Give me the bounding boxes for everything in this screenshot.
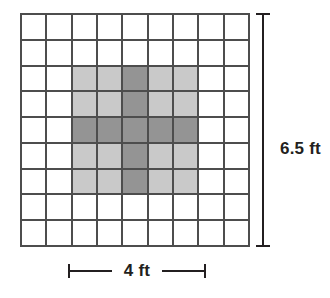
grid-cell bbox=[149, 195, 174, 221]
grid-cell bbox=[149, 221, 174, 247]
grid-area-diagram: 6.5 ft 4 ft bbox=[0, 0, 330, 298]
grid bbox=[20, 13, 250, 247]
grid-cell bbox=[22, 170, 47, 196]
grid-cell bbox=[73, 170, 98, 196]
grid-cell bbox=[47, 67, 72, 93]
vertical-dimension-cap-bottom bbox=[256, 245, 270, 247]
grid-cell bbox=[47, 144, 72, 170]
grid-cell bbox=[123, 195, 148, 221]
grid-cell bbox=[98, 118, 123, 144]
grid-cell bbox=[47, 92, 72, 118]
grid-cell bbox=[149, 92, 174, 118]
grid-cell bbox=[174, 15, 199, 41]
grid-cell bbox=[73, 67, 98, 93]
grid-cell bbox=[73, 41, 98, 67]
grid-cell bbox=[73, 195, 98, 221]
grid-cell bbox=[22, 15, 47, 41]
grid-cell bbox=[199, 195, 224, 221]
vertical-dimension-label: 6.5 ft bbox=[280, 0, 321, 298]
grid-cell bbox=[123, 221, 148, 247]
grid-cell bbox=[174, 144, 199, 170]
grid-cell bbox=[22, 144, 47, 170]
grid-cell bbox=[73, 92, 98, 118]
grid-cell bbox=[47, 195, 72, 221]
grid-cell bbox=[22, 195, 47, 221]
grid-cell bbox=[174, 67, 199, 93]
grid-cell bbox=[47, 15, 72, 41]
grid-cell bbox=[225, 144, 250, 170]
grid-cell bbox=[22, 118, 47, 144]
grid-cell bbox=[225, 67, 250, 93]
horizontal-dimension-label: 4 ft bbox=[68, 261, 206, 281]
grid-cell bbox=[47, 41, 72, 67]
grid-cell bbox=[123, 92, 148, 118]
grid-cell bbox=[199, 67, 224, 93]
grid-cell bbox=[174, 195, 199, 221]
grid-cell bbox=[22, 67, 47, 93]
grid-cell bbox=[22, 92, 47, 118]
grid-cell bbox=[98, 144, 123, 170]
grid-cell bbox=[199, 15, 224, 41]
grid-cell bbox=[123, 170, 148, 196]
grid-cell bbox=[199, 118, 224, 144]
grid-cell bbox=[199, 144, 224, 170]
grid-cell bbox=[47, 170, 72, 196]
grid-cell bbox=[149, 15, 174, 41]
grid-cell bbox=[174, 221, 199, 247]
grid-cell bbox=[98, 170, 123, 196]
grid-cell bbox=[123, 144, 148, 170]
grid-cell bbox=[98, 195, 123, 221]
grid-cell bbox=[199, 41, 224, 67]
grid-cell bbox=[123, 67, 148, 93]
grid-cell bbox=[98, 15, 123, 41]
grid-cell bbox=[174, 170, 199, 196]
grid-cell bbox=[149, 170, 174, 196]
grid-cell bbox=[199, 170, 224, 196]
vertical-dimension-rule bbox=[262, 13, 264, 247]
grid-cell bbox=[225, 170, 250, 196]
grid-cell bbox=[47, 118, 72, 144]
grid-cell bbox=[98, 221, 123, 247]
grid-cell bbox=[225, 92, 250, 118]
grid-cell bbox=[149, 67, 174, 93]
vertical-dimension-cap-top bbox=[256, 13, 270, 15]
grid-cell bbox=[149, 41, 174, 67]
grid-cell bbox=[199, 221, 224, 247]
grid-cell bbox=[225, 118, 250, 144]
grid-cell bbox=[98, 92, 123, 118]
grid-cell bbox=[149, 118, 174, 144]
grid-cell bbox=[22, 221, 47, 247]
grid-cell bbox=[98, 41, 123, 67]
grid-cell bbox=[225, 41, 250, 67]
grid-cell bbox=[199, 92, 224, 118]
grid-cell bbox=[73, 118, 98, 144]
grid-cell bbox=[174, 41, 199, 67]
grid-cell bbox=[225, 15, 250, 41]
grid-cell bbox=[73, 144, 98, 170]
grid-cell bbox=[73, 15, 98, 41]
grid-cell bbox=[174, 92, 199, 118]
grid-cell bbox=[149, 144, 174, 170]
grid-cell bbox=[47, 221, 72, 247]
grid-container bbox=[20, 13, 250, 247]
grid-cell bbox=[123, 15, 148, 41]
grid-cell bbox=[123, 118, 148, 144]
grid-cell bbox=[225, 195, 250, 221]
vertical-dimension-line bbox=[262, 13, 264, 247]
grid-cell bbox=[123, 41, 148, 67]
grid-cell bbox=[174, 118, 199, 144]
grid-cell bbox=[22, 41, 47, 67]
grid-cell bbox=[98, 67, 123, 93]
grid-cell bbox=[73, 221, 98, 247]
grid-cell bbox=[225, 221, 250, 247]
